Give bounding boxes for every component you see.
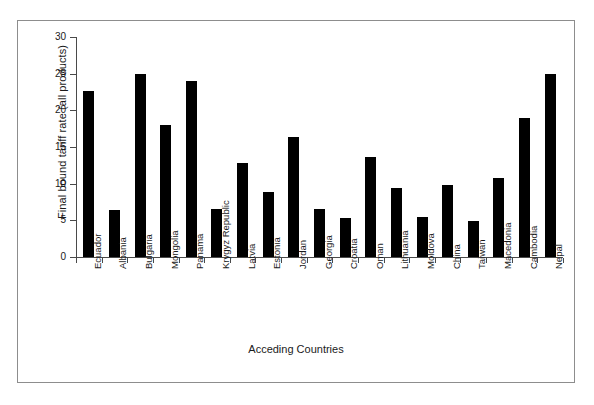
x-axis-tick	[460, 258, 461, 263]
x-axis-category-label: Moldova	[426, 233, 436, 269]
x-axis-tick	[281, 258, 282, 263]
y-axis-tick-label: 10	[44, 179, 66, 189]
y-axis-tick	[70, 184, 76, 185]
y-axis-tick	[70, 147, 76, 148]
x-axis-category-label: Ecuador	[93, 234, 103, 269]
x-axis-tick	[384, 258, 385, 263]
bar	[83, 91, 94, 257]
y-axis-tick-label: 0	[44, 252, 66, 262]
y-axis-tick-label: 20	[44, 105, 66, 115]
x-axis-tick	[332, 258, 333, 263]
x-axis-tick	[204, 258, 205, 263]
x-axis-category-label: Estonia	[272, 237, 282, 269]
bar	[545, 74, 556, 257]
x-axis-category-label: Panama	[195, 234, 205, 269]
x-axis-tick	[153, 258, 154, 263]
x-axis-category-label: Croatia	[349, 238, 359, 269]
x-axis-tick	[563, 258, 564, 263]
figure-frame: Final bound tariff rate (all products) A…	[17, 20, 575, 383]
x-axis-category-label: Mongolia	[170, 230, 180, 269]
x-axis-tick	[255, 258, 256, 263]
y-axis-tick-label: 5	[44, 215, 66, 225]
plot-area: 051015202530 EcuadorAlbaniaBulgariaMongo…	[76, 37, 563, 257]
y-axis-tick	[70, 110, 76, 111]
x-axis-category-label: Taiwan	[477, 239, 487, 269]
y-axis-tick-label: 25	[44, 69, 66, 79]
y-axis-line	[76, 37, 77, 257]
x-axis-category-label: Jordan	[298, 240, 308, 269]
y-axis-title: Final bound tariff rate (all products)	[56, 17, 68, 247]
x-axis-category-label: Lithuania	[400, 230, 410, 269]
x-axis-category-label: Albania	[118, 237, 128, 269]
y-axis-tick	[70, 74, 76, 75]
y-axis-tick-label: 30	[44, 32, 66, 42]
y-axis-tick	[70, 37, 76, 38]
x-axis-tick	[127, 258, 128, 263]
x-axis-category-label: China	[452, 244, 462, 269]
x-axis-tick	[307, 258, 308, 263]
y-axis-tick	[70, 220, 76, 221]
x-axis-title: Acceding Countries	[18, 343, 574, 355]
x-axis-tick	[76, 258, 77, 263]
y-axis-tick-label: 15	[44, 142, 66, 152]
x-axis-tick	[230, 258, 231, 263]
x-axis-category-label: Nepal	[554, 244, 564, 269]
x-axis-category-label: Latvia	[247, 244, 257, 269]
bar	[186, 81, 197, 257]
x-axis-tick	[537, 258, 538, 263]
bar	[365, 157, 376, 257]
x-axis-tick	[512, 258, 513, 263]
x-axis-category-label: Oman	[375, 243, 385, 269]
figure-page: Final bound tariff rate (all products) A…	[0, 0, 594, 405]
x-axis-category-label: Bulgaria	[144, 234, 154, 269]
x-axis-tick	[102, 258, 103, 263]
x-axis-tick	[486, 258, 487, 263]
x-axis-category-label: Georgia	[324, 235, 334, 269]
x-axis-tick	[435, 258, 436, 263]
x-axis-tick	[409, 258, 410, 263]
x-axis-tick	[179, 258, 180, 263]
x-axis-tick	[358, 258, 359, 263]
bar	[135, 74, 146, 257]
